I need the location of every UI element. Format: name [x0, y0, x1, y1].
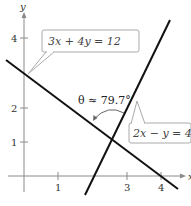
- callout-line-1: 3x + 4y = 12: [28, 30, 139, 74]
- x-tick-4: 4: [158, 182, 164, 193]
- y-tick-2: 2: [11, 103, 17, 114]
- callout-label-1: 3x + 4y = 12: [48, 35, 121, 48]
- y-axis-label: y: [19, 1, 26, 12]
- callout-line-2: 2x − y = 4: [129, 101, 191, 143]
- coordinate-diagram: y x 1 3 4 1 2 4 θ ≈ 79.7° 3x + 4y = 12 2…: [0, 0, 191, 206]
- x-tick-3: 3: [124, 182, 130, 193]
- y-axis-arrow-icon: [22, 12, 27, 18]
- callout-label-2: 2x − y = 4: [132, 127, 191, 140]
- y-tick-4: 4: [11, 33, 17, 44]
- y-tick-1: 1: [11, 137, 17, 148]
- angle-arc: [94, 110, 124, 119]
- x-axis-arrow-icon: [180, 174, 186, 179]
- x-axis-label: x: [188, 171, 191, 182]
- angle-label: θ ≈ 79.7°: [78, 94, 131, 107]
- x-tick-1: 1: [55, 182, 61, 193]
